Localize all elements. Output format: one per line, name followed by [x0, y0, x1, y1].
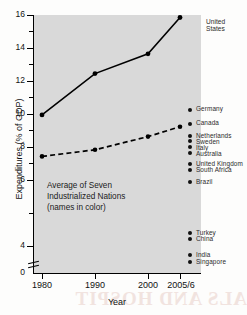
country-label-singapore: Singapore	[196, 259, 226, 266]
country-label-australia: Australia	[196, 151, 222, 158]
annotation-line-2: Industrialized Nations	[47, 192, 125, 203]
country-label-china: China	[196, 236, 213, 243]
country-dot-sweden	[188, 139, 192, 143]
series-average-seven-line	[42, 127, 180, 157]
series-united-states-point-2005	[178, 15, 183, 20]
country-dot-canada	[188, 122, 192, 126]
series-average-seven-point-2000	[146, 134, 151, 139]
series-united-states-point-1980	[40, 113, 45, 118]
united-states-endpoint-label: United States	[206, 18, 225, 33]
country-dot-germany	[188, 108, 192, 112]
country-dot-united-kingdom	[188, 162, 192, 166]
country-dot-south-africa	[188, 168, 192, 172]
series-united-states-point-1990	[93, 71, 98, 76]
country-label-germany: Germany	[196, 106, 223, 113]
average-seven-annotation: Average of Seven Industrialized Nations …	[47, 181, 125, 213]
country-label-canada: Canada	[196, 120, 219, 127]
country-dot-china	[188, 237, 192, 241]
country-label-south-africa: South Africa	[196, 167, 232, 174]
country-dot-turkey	[188, 231, 192, 235]
country-dot-singapore	[188, 260, 192, 264]
chart-figure: ALS AND HOSPIT 16 14 12 10 8 6 4 0 1980 …	[0, 0, 247, 315]
country-dot-brazil	[188, 180, 192, 184]
country-dot-italy	[188, 145, 192, 149]
series-average-seven-point-2005	[178, 124, 183, 129]
country-label-brazil: Brazil	[196, 179, 213, 186]
series-united-states-line	[42, 18, 180, 115]
united-states-label-line2: States	[206, 25, 225, 32]
country-dot-australia	[188, 151, 192, 155]
annotation-line-3: (names in color)	[47, 203, 125, 214]
series-united-states-point-2000	[146, 51, 151, 56]
annotation-line-1: Average of Seven	[47, 181, 125, 192]
country-dot-netherlands	[188, 134, 192, 138]
united-states-label-line1: United	[206, 18, 225, 25]
series-average-seven-point-1990	[93, 148, 98, 153]
series-average-seven-point-1980	[40, 154, 45, 159]
country-dot-india	[188, 253, 192, 257]
